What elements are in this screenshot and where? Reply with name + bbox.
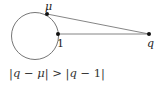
minus: − [20,66,37,80]
label-1: 1 [57,37,64,50]
inequality-caption: |q − μ| > |q − 1| [9,66,105,80]
greater-than: > [49,66,66,80]
unit-circle [12,13,59,60]
segment-mu-q [47,14,149,34]
point-1 [56,32,60,36]
minus: − [77,66,94,80]
label-mu: μ [45,0,52,13]
var-q: q [69,66,76,80]
point-q [147,32,151,36]
label-q: q [147,37,154,50]
abs-bar: | [101,66,105,80]
var-mu: μ [37,66,44,80]
one: 1 [94,66,101,80]
